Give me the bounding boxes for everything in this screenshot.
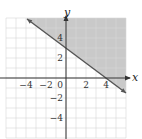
x-tick-label: 4 [103,80,109,90]
x-axis-arrow-icon [125,76,131,81]
x-tick-label: 0 [57,80,63,90]
y-tick-label: 2 [57,53,63,63]
y-tick-label: 4 [57,33,63,43]
y-tick-label: −2 [50,93,63,103]
x-axis-label: x [132,71,139,84]
x-tick-label: 2 [83,80,89,90]
x-tick-label: −4 [19,80,33,90]
inequality-graph: x y −4−202442−2−4 [0,0,142,139]
y-tick-label: −4 [50,113,64,123]
x-tick-label: −2 [39,80,52,90]
y-axis-label: y [63,6,71,19]
